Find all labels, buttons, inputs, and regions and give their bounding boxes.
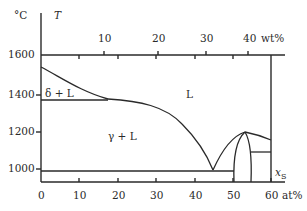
x-tick-40: 40 <box>189 189 202 201</box>
top-tick-10: 10 <box>98 32 111 44</box>
compound-liquidus-right <box>245 132 271 140</box>
top-tick-30: 30 <box>200 32 213 44</box>
top-unit-label: wt% <box>261 32 284 44</box>
composition-label: xS <box>275 166 286 181</box>
x-tick-20: 20 <box>112 189 125 201</box>
region-label-liquid: L <box>186 88 193 100</box>
compound-boundary-left <box>234 132 245 182</box>
phase-diagram: °C T 1600 1400 1200 1000 0 10 20 30 40 5… <box>0 0 307 211</box>
y-tick-1000: 1000 <box>8 162 35 174</box>
y-ticks <box>36 95 41 169</box>
top-tick-20: 20 <box>152 32 165 44</box>
y-var-label: T <box>54 9 62 21</box>
x-tick-50: 50 <box>227 189 240 201</box>
x-tick-60: 60 <box>265 189 278 201</box>
top-tick-40: 40 <box>243 32 256 44</box>
region-label-gamma-liquid: γ + L <box>108 130 137 142</box>
y-tick-1400: 1400 <box>8 88 35 100</box>
y-tick-1200: 1200 <box>8 125 35 137</box>
x-tick-30: 30 <box>150 189 163 201</box>
y-tick-1600: 1600 <box>8 48 35 60</box>
compound-boundary-right <box>245 132 251 182</box>
x-tick-10: 10 <box>73 189 86 201</box>
y-unit-label: °C <box>14 9 27 21</box>
region-label-delta-liquid: δ + L <box>45 87 74 99</box>
bottom-unit-label: at% <box>282 189 302 201</box>
x-tick-0: 0 <box>38 189 45 201</box>
